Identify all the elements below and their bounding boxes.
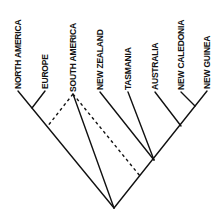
- label-new-caledonia: NEW CALEDONIA: [176, 20, 186, 90]
- cladogram-svg: NORTH AMERICA EUROPE SOUTH AMERICA NEW Z…: [0, 0, 223, 219]
- branch-australia: [155, 92, 181, 126]
- label-new-guinea: NEW GUINEA: [202, 36, 212, 89]
- branch-new-zealand: [100, 92, 154, 160]
- label-tasmania: TASMANIA: [123, 47, 133, 90]
- branch-tasmania: [128, 92, 154, 160]
- branch-europe: [32, 91, 45, 108]
- label-north-america: NORTH AMERICA: [13, 20, 23, 89]
- label-south-america: SOUTH AMERICA: [68, 23, 78, 92]
- branch-new-caledonia: [181, 92, 195, 106]
- branch-new-guinea: [114, 91, 207, 208]
- label-australia: AUSTRALIA: [150, 43, 160, 90]
- cladogram-diagram: NORTH AMERICA EUROPE SOUTH AMERICA NEW Z…: [0, 0, 223, 219]
- dashed-link-south-america-right: [73, 94, 140, 176]
- label-new-zealand: NEW ZEALAND: [95, 29, 105, 90]
- branch-south-america: [73, 94, 114, 208]
- label-europe: EUROPE: [40, 54, 50, 89]
- dashed-link-south-america-left: [47, 94, 73, 127]
